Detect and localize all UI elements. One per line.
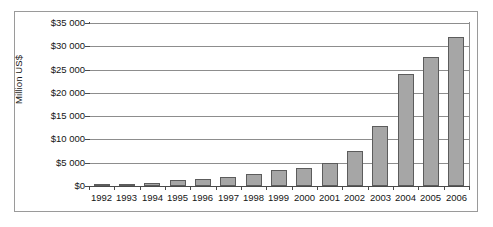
bar-chart-figure: Million US$ $35 000$30 000$25 000$20 000… [0, 0, 493, 227]
bar-1994 [144, 183, 160, 186]
plot-right-edge [469, 22, 470, 187]
y-tick-label: $30 000 [5, 41, 85, 51]
bar-2002 [347, 151, 363, 186]
y-tick-mark [85, 139, 90, 140]
x-tick-label-1992: 1992 [89, 192, 114, 203]
y-tick-mark [85, 70, 90, 71]
x-tick-label-1999: 1999 [266, 192, 291, 203]
bar-2003 [372, 126, 388, 186]
x-tick-mark [114, 186, 115, 190]
y-tick-label: $15 000 [5, 111, 85, 121]
x-tick-label-2000: 2000 [292, 192, 317, 203]
y-tick-mark [85, 93, 90, 94]
y-tick-mark [85, 116, 90, 117]
x-tick-mark [241, 186, 242, 190]
x-tick-label-2004: 2004 [393, 192, 418, 203]
bar-1993 [119, 184, 135, 186]
x-tick-label-2005: 2005 [418, 192, 443, 203]
bar-2000 [296, 168, 312, 186]
bar-2006 [448, 37, 464, 186]
x-tick-label-1998: 1998 [241, 192, 266, 203]
x-tick-label-1997: 1997 [216, 192, 241, 203]
bar-1997 [220, 177, 236, 186]
y-tick-mark [85, 23, 90, 24]
gridline-35000 [89, 23, 469, 24]
plot-area [89, 23, 469, 186]
y-tick-label: $0 [5, 181, 85, 191]
y-axis-tick-labels: $35 000$30 000$25 000$20 000$15 000$10 0… [4, 23, 85, 186]
x-tick-mark [165, 186, 166, 190]
y-tick-mark [85, 163, 90, 164]
x-tick-label-2001: 2001 [317, 192, 342, 203]
bar-2004 [398, 74, 414, 186]
x-tick-label-1995: 1995 [165, 192, 190, 203]
x-tick-label-2006: 2006 [444, 192, 469, 203]
x-tick-mark [89, 186, 90, 190]
bar-1992 [94, 184, 110, 186]
y-tick-label: $5 000 [5, 158, 85, 168]
bar-2001 [322, 163, 338, 186]
y-tick-label: $35 000 [5, 18, 85, 28]
y-tick-label: $20 000 [5, 88, 85, 98]
x-tick-label-2002: 2002 [342, 192, 367, 203]
y-tick-mark [85, 46, 90, 47]
x-tick-label-1993: 1993 [114, 192, 139, 203]
bar-1996 [195, 179, 211, 186]
x-tick-mark [342, 186, 343, 190]
gridline-25000 [89, 70, 469, 71]
x-tick-label-1996: 1996 [190, 192, 215, 203]
bar-1995 [170, 180, 186, 186]
x-tick-mark [418, 186, 419, 190]
x-tick-mark [469, 186, 470, 190]
y-tick-label: $10 000 [5, 134, 85, 144]
x-tick-label-2003: 2003 [368, 192, 393, 203]
gridline-0 [89, 186, 469, 187]
x-tick-mark [292, 186, 293, 190]
y-tick-label: $25 000 [5, 65, 85, 75]
bar-1998 [246, 174, 262, 186]
x-tick-mark [317, 186, 318, 190]
gridline-30000 [89, 46, 469, 47]
x-tick-mark [368, 186, 369, 190]
x-tick-mark [190, 186, 191, 190]
x-tick-mark [393, 186, 394, 190]
bar-1999 [271, 170, 287, 186]
x-tick-mark [140, 186, 141, 190]
x-tick-label-1994: 1994 [140, 192, 165, 203]
x-tick-mark [444, 186, 445, 190]
bar-2005 [423, 57, 439, 186]
x-tick-mark [216, 186, 217, 190]
x-tick-mark [266, 186, 267, 190]
